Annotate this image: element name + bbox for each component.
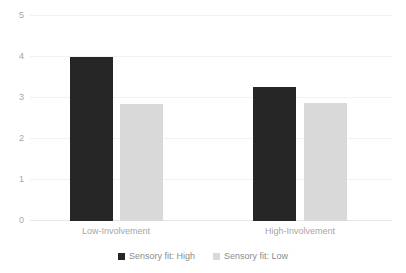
plot-area xyxy=(30,15,392,221)
x-axis-label-low-involvement: Low-Involvement xyxy=(56,226,176,237)
y-tick-5: 5 xyxy=(6,11,24,20)
legend-swatch-icon-low xyxy=(213,253,220,260)
bar-high-involvement-sensory-low xyxy=(304,103,347,221)
bar-chart: 5 4 3 2 1 0 Low-Involvement High-Involve… xyxy=(0,0,406,273)
legend-item-sensory-fit-high: Sensory fit: High xyxy=(118,252,195,261)
bar-high-involvement-sensory-high xyxy=(253,87,296,221)
legend-label-sensory-fit-low: Sensory fit: Low xyxy=(224,252,288,261)
bar-low-involvement-sensory-low xyxy=(120,104,163,221)
y-tick-1: 1 xyxy=(6,175,24,184)
legend-item-sensory-fit-low: Sensory fit: Low xyxy=(213,252,288,261)
chart-legend: Sensory fit: High Sensory fit: Low xyxy=(0,252,406,261)
y-tick-3: 3 xyxy=(6,93,24,102)
bar-low-involvement-sensory-high xyxy=(70,57,113,221)
x-axis-label-high-involvement: High-Involvement xyxy=(240,226,360,237)
legend-label-sensory-fit-high: Sensory fit: High xyxy=(129,252,195,261)
y-tick-2: 2 xyxy=(6,134,24,143)
gridline-5 xyxy=(30,15,392,16)
y-tick-4: 4 xyxy=(6,52,24,61)
y-tick-0: 0 xyxy=(6,216,24,225)
legend-swatch-icon-high xyxy=(118,253,125,260)
